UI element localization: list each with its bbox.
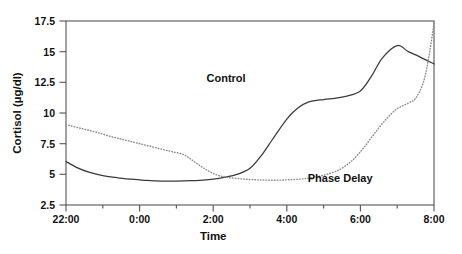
plot-frame xyxy=(66,21,434,205)
cortisol-time-chart: 17.5 15 12.5 10 7.5 5 2.5 Cortisol (µg/d… xyxy=(0,0,462,254)
series-line-control xyxy=(66,45,434,181)
y-tick-label: 5 xyxy=(49,168,55,180)
y-tick-label: 12.5 xyxy=(35,76,56,88)
y-axis-ticks xyxy=(60,21,67,205)
y-tick-label: 15 xyxy=(43,46,55,58)
x-tick-label: 22:00 xyxy=(53,213,80,225)
x-axis-title: Time xyxy=(200,230,227,242)
x-tick-label: 8:00 xyxy=(423,213,444,225)
series-annotation-control: Control xyxy=(207,72,246,84)
y-tick-label: 2.5 xyxy=(40,199,55,211)
y-tick-label: 10 xyxy=(43,107,55,119)
y-tick-label: 7.5 xyxy=(40,138,55,150)
x-axis-tick-labels: 22:00 0:00 2:00 4:00 6:00 8:00 xyxy=(53,213,445,225)
x-tick-label: 6:00 xyxy=(350,213,371,225)
x-tick-label: 4:00 xyxy=(276,213,297,225)
y-axis-title: Cortisol (µg/dl) xyxy=(11,72,23,154)
series-annotation-phase-delay: Phase Delay xyxy=(308,172,374,184)
y-tick-label: 17.5 xyxy=(35,15,56,27)
x-axis-ticks xyxy=(66,205,434,212)
x-tick-label: 2:00 xyxy=(203,213,224,225)
series-line-phase-delay xyxy=(66,23,434,180)
y-axis-tick-labels: 17.5 15 12.5 10 7.5 5 2.5 xyxy=(35,15,56,211)
x-tick-label: 0:00 xyxy=(129,213,150,225)
